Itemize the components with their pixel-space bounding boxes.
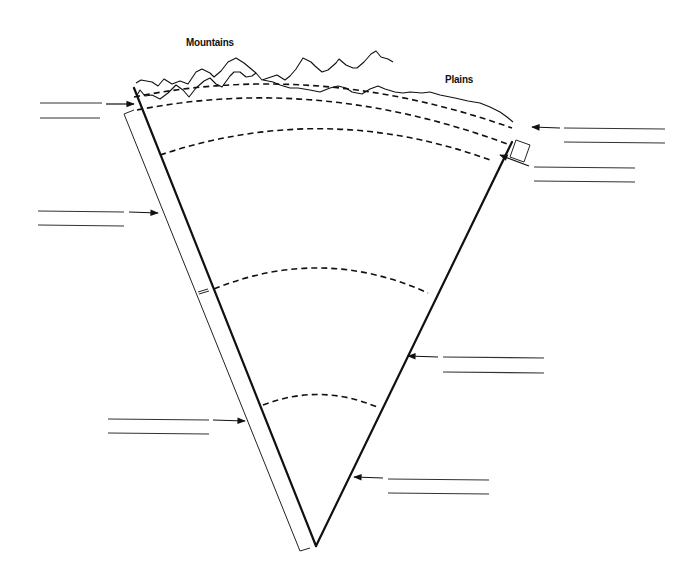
arrow-icon bbox=[129, 212, 158, 213]
answer-blanks bbox=[38, 103, 665, 494]
blank-4-line-2[interactable] bbox=[38, 225, 124, 226]
crust-bottom-boundary bbox=[137, 98, 510, 145]
blank-2-line-1[interactable] bbox=[564, 128, 665, 129]
blank-7-line-2[interactable] bbox=[388, 493, 489, 494]
arrow-icon bbox=[213, 420, 245, 421]
mantle-core-boundary bbox=[214, 268, 428, 293]
upper-mantle-boundary bbox=[160, 129, 490, 160]
wedge-outline bbox=[134, 88, 512, 546]
blank-5-line-1[interactable] bbox=[443, 357, 544, 358]
blank-3-line-1[interactable] bbox=[534, 167, 635, 168]
blank-2-line-2[interactable] bbox=[564, 142, 665, 143]
plains-label: Plains bbox=[445, 73, 473, 85]
mountains-label: Mountains bbox=[186, 36, 234, 48]
blank-4-line-1[interactable] bbox=[38, 211, 124, 212]
side-strip bbox=[124, 110, 310, 551]
wedge-right-edge bbox=[316, 142, 512, 546]
arrow-icon bbox=[408, 356, 438, 357]
arrow-icon bbox=[532, 127, 560, 128]
arrow-icon bbox=[354, 477, 383, 478]
wedge-left-edge bbox=[134, 88, 316, 546]
blank-5-line-2[interactable] bbox=[443, 372, 544, 373]
oceanic-crust-box bbox=[510, 140, 530, 162]
side-strip-outline bbox=[124, 110, 310, 551]
blank-3-line-2[interactable] bbox=[534, 181, 635, 182]
blank-7-line-1[interactable] bbox=[388, 479, 489, 480]
layer-boundaries bbox=[134, 84, 512, 407]
blank-6-line-2[interactable] bbox=[108, 433, 209, 434]
inner-core-boundary bbox=[263, 394, 377, 407]
blank-6-line-1[interactable] bbox=[108, 419, 209, 420]
earth-layers-diagram bbox=[0, 0, 690, 586]
pointer-arrows bbox=[106, 104, 560, 478]
